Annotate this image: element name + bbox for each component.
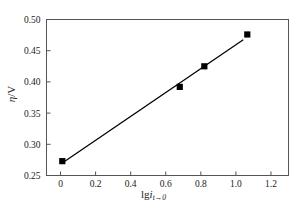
x-axis-title: lgit→0 <box>0 188 307 202</box>
x-axis-title-subscript: t→0 <box>153 193 166 202</box>
y-tick-label: 0.35 <box>24 109 41 119</box>
chart-figure: 0.250.300.350.400.450.50 00.20.40.60.81.… <box>0 0 307 212</box>
data-point <box>244 31 250 37</box>
y-axis-title-slash: / <box>5 94 17 97</box>
y-axis-title-symbol: η <box>5 97 17 102</box>
y-axis-title: η/V <box>5 74 17 114</box>
data-point <box>177 84 183 90</box>
y-tick-label: 0.40 <box>24 77 41 87</box>
y-axis-title-unit: V <box>5 86 17 94</box>
scatter-plot-canvas: 0.250.300.350.400.450.50 00.20.40.60.81.… <box>0 0 307 212</box>
y-tick-label: 0.45 <box>24 46 41 56</box>
y-tick-label: 0.50 <box>24 15 41 25</box>
data-point <box>59 158 65 164</box>
x-axis-title-lg: lg <box>141 188 150 200</box>
y-tick-label: 0.30 <box>24 140 41 150</box>
y-tick-label: 0.25 <box>24 171 41 181</box>
data-point <box>201 63 207 69</box>
